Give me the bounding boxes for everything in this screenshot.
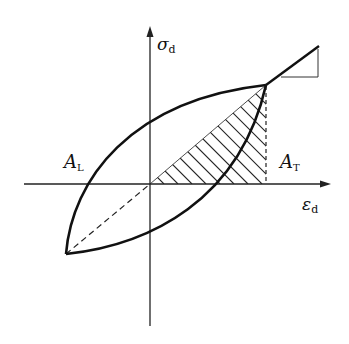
loop-area-label: AL <box>62 151 84 173</box>
triangle-area-label: AT <box>278 151 300 173</box>
secant-dashed-line <box>66 184 150 254</box>
x-axis-arrow-icon <box>320 181 331 188</box>
hysteresis-diagram: σd εd AL AT <box>0 0 349 344</box>
slope-triangle <box>281 49 318 77</box>
stiffness-line <box>266 46 319 85</box>
y-axis-label: σd <box>157 34 176 56</box>
x-axis-label: εd <box>302 194 318 216</box>
y-axis-arrow-icon <box>147 26 154 37</box>
